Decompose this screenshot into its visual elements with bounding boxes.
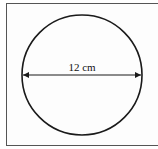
diameter-label: 12 cm	[68, 61, 96, 73]
circle-diagram: 12 cm	[0, 0, 158, 149]
